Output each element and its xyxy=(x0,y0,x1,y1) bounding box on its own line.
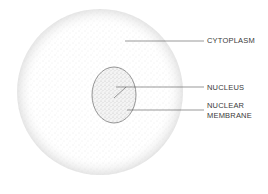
label-cytoplasm: CYTOPLASM xyxy=(207,36,255,45)
label-nucleus: NUCLEUS xyxy=(207,83,244,92)
label-nuclear-membrane-line1: NUCLEAR xyxy=(207,101,244,110)
cell-diagram xyxy=(0,0,268,194)
nucleus-region xyxy=(92,67,136,123)
label-nuclear-membrane-line2: MEMBRANE xyxy=(207,111,252,120)
